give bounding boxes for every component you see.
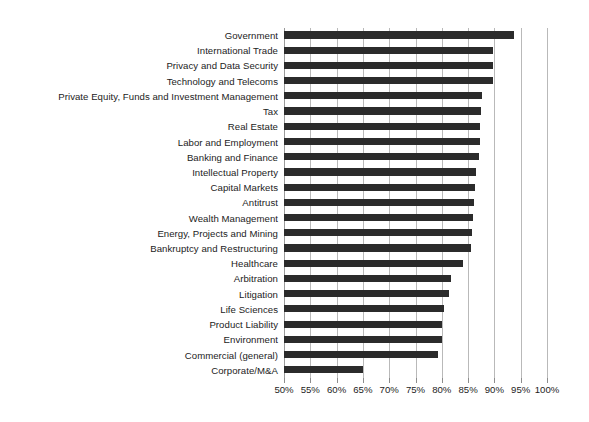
category-label: Privacy and Data Security: [166, 58, 278, 73]
category-label: Tax: [263, 104, 278, 119]
category-label: Wealth Management: [189, 211, 278, 226]
bar-row: [284, 74, 547, 89]
tick-label: 65%: [353, 384, 372, 395]
bar: [284, 77, 493, 84]
bar-row: [284, 226, 547, 241]
category-label: Capital Markets: [211, 180, 278, 195]
bar-row: [284, 332, 547, 347]
bar-row: [284, 43, 547, 58]
tick-mark: [363, 378, 364, 383]
category-label: Commercial (general): [185, 348, 278, 363]
tick-mark: [494, 378, 495, 383]
bar: [284, 184, 475, 191]
bar-row: [284, 89, 547, 104]
category-label: Healthcare: [231, 256, 278, 271]
bar-row: [284, 363, 547, 378]
category-label: Arbitration: [234, 271, 278, 286]
bar: [284, 199, 474, 206]
bar: [284, 305, 444, 312]
category-label: Banking and Finance: [187, 150, 278, 165]
bar: [284, 275, 451, 282]
category-label: Antitrust: [242, 195, 278, 210]
bar-row: [284, 135, 547, 150]
value-axis: 50%55%60%65%70%75%80%85%90%95%100%: [284, 378, 547, 408]
bar-row: [284, 256, 547, 271]
bar-row: [284, 302, 547, 317]
category-axis-labels: GovernmentInternational TradePrivacy and…: [0, 28, 278, 378]
bar-row: [284, 180, 547, 195]
bar: [284, 366, 363, 373]
bar-row: [284, 104, 547, 119]
tick-label: 50%: [274, 384, 293, 395]
category-label: Real Estate: [228, 119, 278, 134]
category-label: Technology and Telecoms: [167, 74, 278, 89]
tick-mark: [337, 378, 338, 383]
tick-mark: [389, 378, 390, 383]
bar: [284, 336, 442, 343]
category-label: International Trade: [197, 43, 278, 58]
tick-mark: [416, 378, 417, 383]
category-label: Private Equity, Funds and Investment Man…: [58, 89, 278, 104]
tick-label: 100%: [535, 384, 560, 395]
tick-mark: [442, 378, 443, 383]
bar-row: [284, 195, 547, 210]
tick-mark: [547, 378, 548, 383]
bar-row: [284, 287, 547, 302]
tick-label: 75%: [406, 384, 425, 395]
tick-mark: [521, 378, 522, 383]
tick-label: 55%: [301, 384, 320, 395]
bar: [284, 260, 463, 267]
tick-label: 60%: [327, 384, 346, 395]
bar-row: [284, 119, 547, 134]
category-label: Life Sciences: [220, 302, 278, 317]
bar-row: [284, 28, 547, 43]
tick-label: 90%: [485, 384, 504, 395]
bar: [284, 214, 473, 221]
category-label: Labor and Employment: [178, 135, 278, 150]
gridline-100pct: [547, 28, 548, 378]
bar-row: [284, 211, 547, 226]
bar: [284, 168, 476, 175]
tick-mark: [284, 378, 285, 383]
bar: [284, 47, 493, 54]
category-label: Energy, Projects and Mining: [157, 226, 278, 241]
bar: [284, 321, 442, 328]
tick-label: 95%: [511, 384, 530, 395]
bar: [284, 244, 471, 251]
category-label: Bankruptcy and Restructuring: [150, 241, 278, 256]
bar-row: [284, 165, 547, 180]
bar-row: [284, 348, 547, 363]
bar-row: [284, 150, 547, 165]
bar: [284, 107, 481, 114]
tick-mark: [468, 378, 469, 383]
bar-series: [284, 28, 547, 378]
bar-row: [284, 271, 547, 286]
bar: [284, 123, 480, 130]
category-label: Corporate/M&A: [211, 363, 278, 378]
category-label: Environment: [224, 332, 278, 347]
bar: [284, 229, 472, 236]
bar-chart: GovernmentInternational TradePrivacy and…: [0, 0, 589, 422]
bar-row: [284, 317, 547, 332]
plot-area: [284, 28, 547, 378]
bar: [284, 62, 493, 69]
bar: [284, 290, 449, 297]
category-label: Government: [225, 28, 278, 43]
bar: [284, 351, 438, 358]
category-label: Product Liability: [209, 317, 278, 332]
category-label: Litigation: [239, 287, 278, 302]
category-label: Intellectual Property: [192, 165, 278, 180]
tick-label: 85%: [458, 384, 477, 395]
bar: [284, 153, 479, 160]
tick-label: 80%: [432, 384, 451, 395]
bar: [284, 92, 482, 99]
bar-row: [284, 58, 547, 73]
tick-label: 70%: [380, 384, 399, 395]
bar: [284, 31, 514, 38]
bar: [284, 138, 480, 145]
tick-mark: [310, 378, 311, 383]
bar-row: [284, 241, 547, 256]
